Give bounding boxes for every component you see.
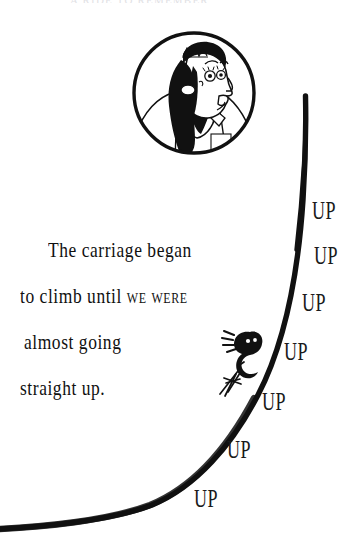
- up-word: UP: [194, 486, 218, 512]
- story-line-3: almost going: [24, 331, 216, 352]
- story-line-2-smallcaps: we were: [127, 284, 188, 308]
- story-line-4: straight up.: [20, 377, 216, 398]
- woman-with-tiara-portrait-icon: [131, 26, 257, 160]
- story-line-1-text: The carriage began: [48, 238, 192, 262]
- story-line-3-text: almost going: [24, 330, 121, 354]
- story-line-1: The carriage began: [48, 239, 218, 260]
- story-text-block: The carriage began to climb until we wer…: [18, 240, 233, 397]
- page-canvas: A RIDE TO REMEMBER: [0, 0, 357, 546]
- up-word: UP: [312, 198, 336, 224]
- portrait-medallion: [131, 26, 257, 160]
- up-word: UP: [262, 389, 286, 415]
- story-line-4-text: straight up.: [20, 376, 105, 400]
- story-line-2: to climb until we were: [20, 285, 216, 306]
- up-word: UP: [227, 437, 251, 463]
- clipped-header-text: A RIDE TO REMEMBER: [70, 0, 300, 3]
- up-word: UP: [314, 243, 338, 269]
- up-word: UP: [302, 290, 326, 316]
- story-line-2-text: to climb until: [20, 284, 127, 308]
- up-word: UP: [284, 339, 308, 365]
